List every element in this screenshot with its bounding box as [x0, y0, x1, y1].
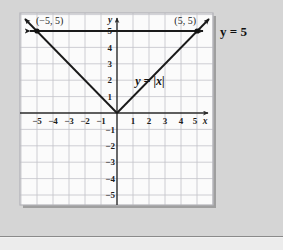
ytick-neg-3: −3 — [105, 157, 115, 167]
xtick-neg-2: −2 — [80, 116, 90, 126]
line-equation-label: y = 5 — [220, 24, 247, 39]
xtick-pos-1: 1 — [131, 116, 136, 126]
point-label-right: (5, 5) — [174, 15, 196, 27]
y-axis-name: y — [107, 15, 113, 25]
ytick-pos-4: 4 — [108, 43, 113, 53]
page-footer-strip — [0, 238, 283, 250]
ytick-neg-2: −2 — [105, 141, 115, 151]
x-axis-name: x — [202, 116, 208, 126]
intersection-point-left — [34, 28, 39, 33]
ytick-pos-2: 2 — [108, 75, 113, 85]
ytick-pos-1: 1 — [108, 92, 113, 102]
xtick-pos-3: 3 — [163, 116, 168, 126]
ytick-neg-1: −1 — [105, 125, 115, 135]
xtick-neg-5: −5 — [32, 116, 42, 126]
ytick-neg-5: −5 — [105, 190, 115, 200]
point-label-left: (−5, 5) — [36, 15, 63, 27]
page-canvas: (−5, 5) (5, 5) y = |x| y = 5 y x −5 −4 −… — [0, 0, 283, 250]
xtick-pos-5: 5 — [193, 116, 198, 126]
ytick-pos-5: 5 — [108, 26, 113, 36]
graph-figure: (−5, 5) (5, 5) y = |x| y = 5 y x −5 −4 −… — [0, 0, 283, 228]
xtick-neg-4: −4 — [48, 116, 58, 126]
xtick-pos-4: 4 — [179, 116, 184, 126]
ytick-pos-3: 3 — [108, 59, 113, 69]
curve-equation-label: y = |x| — [133, 74, 164, 88]
intersection-point-right — [194, 28, 199, 33]
coordinate-graph-svg: (−5, 5) (5, 5) y = |x| y = 5 y x −5 −4 −… — [0, 0, 283, 228]
ytick-neg-4: −4 — [105, 174, 115, 184]
xtick-neg-3: −3 — [64, 116, 74, 126]
xtick-pos-2: 2 — [147, 116, 152, 126]
